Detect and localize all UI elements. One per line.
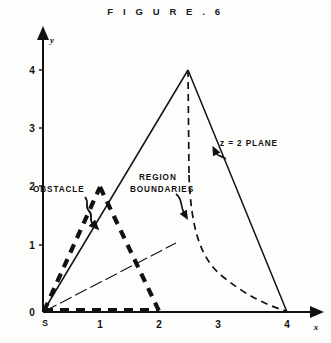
axes-group xyxy=(43,38,312,312)
obstacle-right-edge xyxy=(100,187,159,311)
region-boundaries-label-line2: BOUNDARIES xyxy=(130,185,194,194)
y-tick-label-4: 4 xyxy=(29,65,35,76)
y-tick-label-3: 3 xyxy=(29,123,35,134)
triangle-right-edge-z2-plane xyxy=(188,70,287,312)
figure-plot: 4 3 2 1 0 1 2 3 4 S y x OBSTACLE REGION … xyxy=(0,0,331,343)
x-tick-label-2: 2 xyxy=(156,319,162,330)
y-axis-label: y xyxy=(49,35,55,45)
figure-container: F I G U R E . 6 xyxy=(0,0,331,343)
region-boundaries-leader xyxy=(176,194,184,213)
z2-plane-leader xyxy=(216,153,226,159)
region-boundary-vertical xyxy=(188,70,189,175)
region-boundary-curve xyxy=(189,175,286,311)
origin-label-s: S xyxy=(42,318,48,328)
y-tick-label-0: 0 xyxy=(29,307,35,318)
z2-plane-label: z = 2 PLANE xyxy=(220,139,278,148)
obstacle-label: OBSTACLE xyxy=(33,185,85,194)
obstacle-group xyxy=(44,187,159,311)
x-axis-label: x xyxy=(313,322,319,332)
x-tick-label-3: 3 xyxy=(215,319,221,330)
region-boundaries-label-line1: REGION xyxy=(139,173,177,182)
y-tick-label-1: 1 xyxy=(29,240,35,251)
x-tick-label-4: 4 xyxy=(284,319,290,330)
x-tick-label-1: 1 xyxy=(97,319,103,330)
obstacle-left-edge xyxy=(44,187,100,311)
